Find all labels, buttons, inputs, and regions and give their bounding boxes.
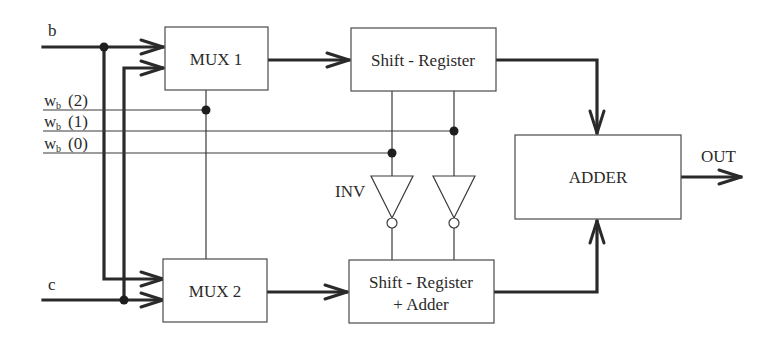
wire-b-to-mux2 xyxy=(104,47,163,279)
wire-shiftreg-adder-to-adder xyxy=(494,221,597,292)
svg-text:(2): (2) xyxy=(68,91,88,110)
input-c-label: c xyxy=(48,275,56,294)
shift-register-block: Shift - Register xyxy=(351,28,496,91)
inverter-right xyxy=(433,176,475,228)
shift-register-adder-block: Shift - Register + Adder xyxy=(349,260,494,323)
output-label: OUT xyxy=(701,147,737,166)
inverter-right-triangle-icon xyxy=(433,176,475,218)
shift-register-label: Shift - Register xyxy=(371,51,475,70)
input-wb1-label: w b (1) xyxy=(44,112,88,132)
svg-text:b: b xyxy=(56,100,61,111)
mux1-label: MUX 1 xyxy=(190,50,242,69)
shift-register-adder-label-line2: + Adder xyxy=(393,295,449,314)
junction-c xyxy=(120,296,129,305)
junction-wb2 xyxy=(202,106,211,115)
mux1-block: MUX 1 xyxy=(165,27,268,90)
inverter-right-bubble-icon xyxy=(449,218,459,228)
inverter-left-bubble-icon xyxy=(387,218,397,228)
svg-text:b: b xyxy=(56,121,61,132)
shift-register-adder-label-line1: Shift - Register xyxy=(369,273,473,292)
adder-block: ADDER xyxy=(515,135,681,219)
input-b-label: b xyxy=(48,21,57,40)
svg-text:(0): (0) xyxy=(68,134,88,153)
input-wb2-label: w b (2) xyxy=(44,91,88,111)
junction-b xyxy=(100,43,109,52)
inverter-left-triangle-icon xyxy=(371,176,413,218)
input-wb0-label: w b (0) xyxy=(44,134,88,154)
block-diagram: MUX 1 MUX 2 Shift - Register Shift - Reg… xyxy=(0,0,782,348)
junction-wb1 xyxy=(450,127,459,136)
mux2-label: MUX 2 xyxy=(189,282,241,301)
svg-text:b: b xyxy=(56,143,61,154)
inverter-left xyxy=(371,176,413,228)
junction-wb0 xyxy=(388,149,397,158)
wire-c-to-mux1 xyxy=(124,68,163,300)
wire-shiftreg-to-adder xyxy=(496,60,597,133)
mux2-block: MUX 2 xyxy=(163,259,267,322)
adder-label: ADDER xyxy=(569,168,628,187)
inverter-label: INV xyxy=(335,182,366,201)
svg-text:(1): (1) xyxy=(68,112,88,131)
